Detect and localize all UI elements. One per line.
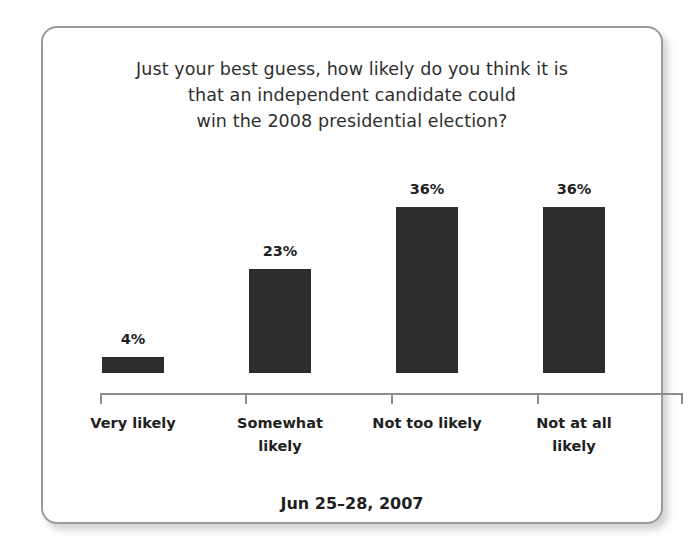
axis-tick [100, 393, 102, 404]
category-labels: Very likely Somewhat likely Not too like… [59, 412, 649, 478]
bar-slot-not-too-likely: 36% [353, 158, 501, 373]
category-label-somewhat-likely: Somewhat likely [206, 412, 354, 458]
bar-value-label: 36% [557, 181, 592, 197]
bar-value-label: 36% [410, 181, 445, 197]
category-label-very-likely: Very likely [59, 412, 207, 435]
plot-area: 4% 23% 36% 36% [59, 158, 649, 373]
axis-tick [537, 393, 539, 404]
bar-slot-not-at-all-likely: 36% [500, 158, 648, 373]
axis-tick [245, 393, 247, 404]
bar-value-label: 23% [263, 243, 298, 259]
axis-tick [681, 393, 683, 404]
bar-not-at-all-likely[interactable] [543, 207, 605, 373]
bar-slot-very-likely: 4% [59, 158, 207, 373]
bar-not-too-likely[interactable] [396, 207, 458, 373]
bar-slot-somewhat-likely: 23% [206, 158, 354, 373]
category-label-not-too-likely: Not too likely [353, 412, 501, 435]
bar-value-label: 4% [121, 331, 146, 347]
category-label-not-at-all-likely: Not at all likely [500, 412, 648, 458]
chart-card: Just your best guess, how likely do you … [41, 26, 663, 524]
bar-very-likely[interactable] [102, 357, 164, 373]
chart-footer-date: Jun 25–28, 2007 [43, 494, 661, 513]
bar-somewhat-likely[interactable] [249, 269, 311, 373]
axis-tick [391, 393, 393, 404]
chart-title: Just your best guess, how likely do you … [43, 56, 661, 134]
